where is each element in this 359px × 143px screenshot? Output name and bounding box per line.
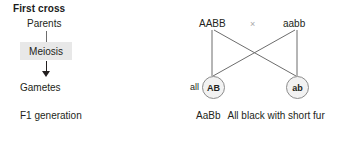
gamete-left-label: AB [207,83,220,93]
f1-phenotype: All black with short fur [227,110,324,121]
f1-result: AaBbAll black with short fur [196,110,325,121]
genetics-cross-diagram: First cross Parents Meiosis Gametes F1 g… [0,0,359,143]
gamete-connector-lines [0,0,359,143]
gamete-quantifier-label: all [190,82,199,92]
gamete-circle-right: ab [286,76,309,99]
f1-genotype: AaBb [196,110,220,121]
gamete-circle-left: AB [202,76,225,99]
gamete-right-label: ab [292,83,303,93]
